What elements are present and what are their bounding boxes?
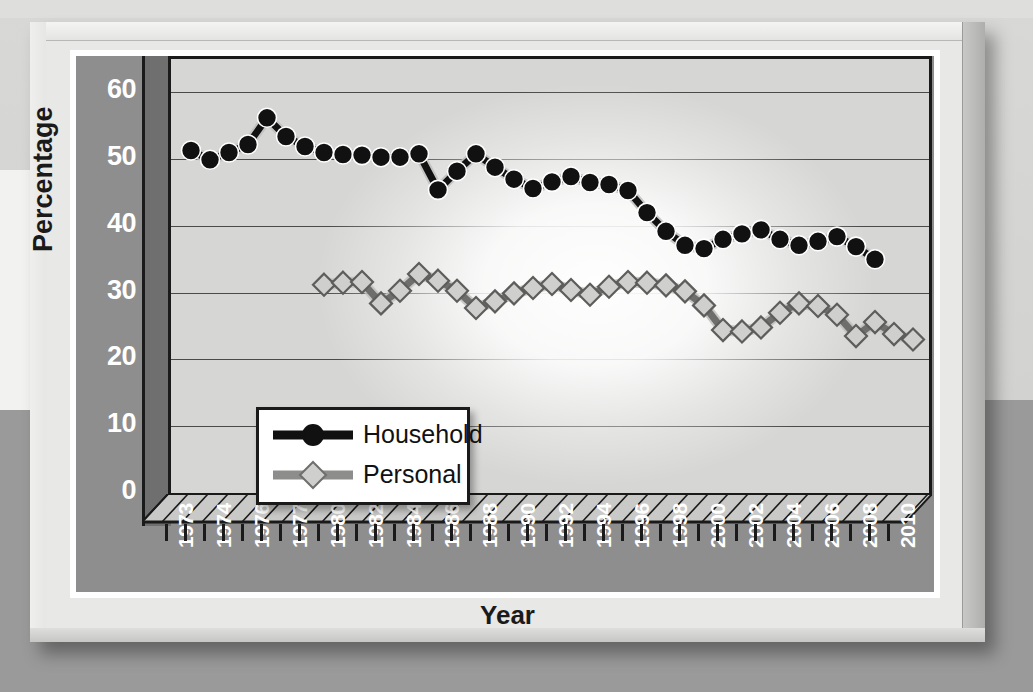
y-tick-label-40: 40 (78, 208, 136, 239)
chart-legend[interactable]: Household Personal (256, 407, 470, 505)
x-tick-mark-5 (260, 524, 263, 541)
x-tick-mark-26 (659, 524, 662, 541)
x-tick-mark-21 (564, 524, 567, 541)
x-tick-label-2010: 2010 (896, 503, 920, 548)
x-tick-mark-20 (545, 524, 548, 541)
x-tick-mark-3 (222, 524, 225, 541)
x-tick-mark-7 (298, 524, 301, 541)
legend-item-household[interactable]: Household (269, 418, 459, 452)
x-tick-mark-14 (431, 524, 434, 541)
x-tick-mark-36 (849, 524, 852, 541)
x-tick-mark-9 (336, 524, 339, 541)
legend-key-diamond-icon (269, 458, 357, 492)
legend-item-personal[interactable]: Personal (269, 458, 459, 492)
x-tick-mark-2 (203, 524, 206, 541)
y-tick-label-30: 30 (78, 275, 136, 306)
y-tick-label-10: 10 (78, 408, 136, 439)
x-tick-mark-34 (811, 524, 814, 541)
legend-key-circle-icon (269, 418, 357, 452)
y-axis-title: Percentage (28, 106, 59, 252)
x-tick-mark-12 (393, 524, 396, 541)
x-tick-mark-33 (792, 524, 795, 541)
legend-label-personal: Personal (363, 460, 462, 489)
legend-label-household: Household (363, 420, 483, 449)
x-tick-mark-35 (830, 524, 833, 541)
x-tick-mark-24 (621, 524, 624, 541)
card-right-bevel (962, 22, 985, 642)
x-tick-mark-29 (716, 524, 719, 541)
y-tick-label-20: 20 (78, 341, 136, 372)
card-top-bevel (30, 22, 985, 41)
x-tick-mark-22 (583, 524, 586, 541)
background-top-strip (0, 0, 1033, 18)
plot-left-wall-3d (142, 56, 171, 526)
x-tick-mark-25 (640, 524, 643, 541)
x-tick-mark-23 (602, 524, 605, 541)
x-tick-mark-8 (317, 524, 320, 541)
x-tick-mark-10 (355, 524, 358, 541)
x-tick-mark-28 (697, 524, 700, 541)
x-tick-mark-37 (868, 524, 871, 541)
x-tick-mark-31 (754, 524, 757, 541)
y-tick-label-50: 50 (78, 141, 136, 172)
y-tick-label-0: 0 (78, 475, 136, 506)
x-tick-mark-11 (374, 524, 377, 541)
chart-card: Percentage 0102030405060 197319741976197… (30, 22, 985, 642)
x-tick-mark-17 (488, 524, 491, 541)
x-tick-mark-30 (735, 524, 738, 541)
x-axis-title: Year (30, 600, 985, 631)
x-tick-mark-4 (241, 524, 244, 541)
x-tick-mark-1 (184, 524, 187, 541)
x-tick-mark-0 (165, 524, 168, 541)
x-tick-mark-6 (279, 524, 282, 541)
x-tick-mark-15 (450, 524, 453, 541)
x-tick-mark-16 (469, 524, 472, 541)
x-tick-mark-27 (678, 524, 681, 541)
y-tick-label-60: 60 (78, 74, 136, 105)
x-tick-mark-38 (887, 524, 890, 541)
x-tick-mark-13 (412, 524, 415, 541)
x-tick-mark-19 (526, 524, 529, 541)
x-tick-mark-32 (773, 524, 776, 541)
x-tick-mark-18 (507, 524, 510, 541)
